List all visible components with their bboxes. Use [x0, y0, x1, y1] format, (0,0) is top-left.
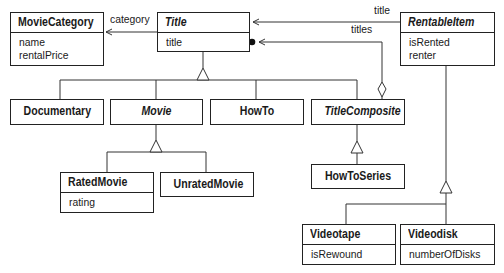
- attribute: title: [166, 36, 234, 49]
- class-name: Movie: [116, 100, 196, 123]
- association-label-category: category: [110, 13, 150, 25]
- class-how-to-series[interactable]: HowToSeries: [311, 164, 405, 189]
- class-how-to[interactable]: HowTo: [210, 99, 304, 125]
- class-name: Documentary: [17, 100, 98, 123]
- class-rentable-item[interactable]: RentableItem isRented renter: [400, 12, 495, 66]
- attribute: isRewound: [311, 248, 379, 261]
- class-name: MovieCategory: [11, 13, 92, 32]
- class-name: UnratedMovie: [167, 173, 248, 195]
- class-attributes: title: [158, 32, 249, 52]
- attribute: renter: [409, 49, 478, 62]
- class-name: HowToSeries: [318, 165, 399, 187]
- class-title-composite[interactable]: TitleComposite: [311, 99, 405, 125]
- class-videotape[interactable]: Videotape isRewound: [302, 224, 396, 265]
- class-movie[interactable]: Movie: [110, 99, 203, 125]
- class-documentary[interactable]: Documentary: [10, 99, 104, 125]
- class-title[interactable]: Title title: [157, 12, 250, 52]
- class-attributes: isRented renter: [401, 32, 494, 65]
- class-name: Videodisk: [401, 225, 483, 244]
- class-name: RentableItem: [401, 13, 483, 32]
- attribute: rentalPrice: [19, 49, 87, 62]
- class-rated-movie[interactable]: RatedMovie rating: [60, 172, 154, 213]
- association-label-titles: titles: [351, 23, 372, 35]
- attribute: name: [19, 36, 87, 49]
- class-unrated-movie[interactable]: UnratedMovie: [160, 172, 254, 197]
- class-attributes: name rentalPrice: [11, 32, 103, 65]
- class-name: Title: [158, 13, 238, 32]
- class-name: RatedMovie: [61, 173, 142, 192]
- class-attributes: isRewound: [303, 244, 395, 264]
- class-attributes: rating: [61, 192, 153, 212]
- attribute: numberOfDisks: [409, 248, 478, 261]
- association-label-title: title: [374, 4, 390, 16]
- class-name: TitleComposite: [318, 100, 399, 123]
- class-movie-category[interactable]: MovieCategory name rentalPrice: [10, 12, 104, 66]
- class-attributes: numberOfDisks: [401, 244, 494, 264]
- class-videodisk[interactable]: Videodisk numberOfDisks: [400, 224, 495, 265]
- class-name: Videotape: [303, 225, 384, 244]
- class-name: HowTo: [217, 100, 298, 123]
- attribute: rating: [69, 196, 137, 209]
- attribute: isRented: [409, 36, 478, 49]
